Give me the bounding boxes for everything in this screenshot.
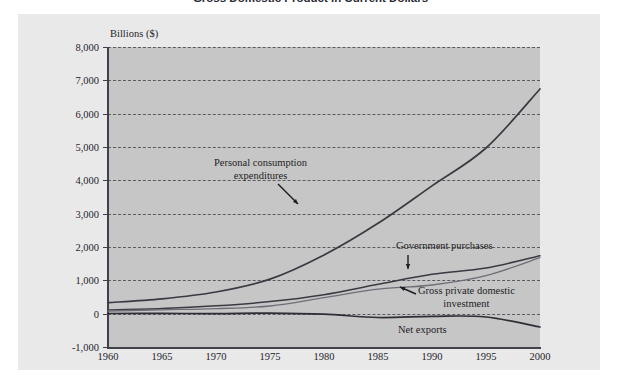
series-personal-consumption-expenditures [108, 89, 540, 303]
y-axis-title: Billions ($) [110, 28, 158, 39]
x-tick-label: 1960 [98, 351, 119, 362]
annotation-government-purchases: Government purchases [396, 240, 493, 253]
x-tick-label: 1985 [368, 351, 389, 362]
chart-title-strip: Gross Domestic Product in Current Dollar… [0, 0, 621, 5]
y-tick-label: 5,000 [75, 142, 99, 153]
arrow-government-purchases-head [406, 264, 410, 269]
figure-area: Billions ($) 8,0007,0006,0005,0004,0003,… [18, 14, 600, 370]
x-tick-label: 1990 [422, 351, 443, 362]
x-tick-label: 1995 [476, 351, 497, 362]
y-tick-label: 1,000 [75, 275, 99, 286]
annotation-arrows [278, 184, 416, 294]
y-tick-label: 3,000 [75, 208, 99, 219]
y-tick-label: 0 [94, 308, 99, 319]
y-tick-label: 2,000 [75, 242, 99, 253]
y-tick-label: 4,000 [75, 175, 99, 186]
plot-area: 8,0007,0006,0005,0004,0003,0002,0001,000… [108, 47, 540, 347]
annotation-net-exports: Net exports [398, 324, 447, 337]
series-net-exports [108, 313, 540, 327]
x-axis-line [107, 347, 541, 349]
y-tick-label: -1,000 [72, 342, 99, 353]
x-tick-label: 1970 [206, 351, 227, 362]
y-tick-label: 7,000 [75, 75, 99, 86]
x-tick-label: 1965 [152, 351, 173, 362]
annotation-gross-private-domestic-investment: Gross private domestic investment [418, 285, 515, 310]
annotation-personal-consumption: Personal consumption expenditures [214, 157, 307, 182]
chart-title: Gross Domestic Product in Current Dollar… [0, 0, 621, 5]
y-tick-label: 6,000 [75, 108, 99, 119]
x-tick-label: 2000 [530, 351, 551, 362]
x-tick-label: 1980 [314, 351, 335, 362]
y-tick-label: 8,000 [75, 42, 99, 53]
x-tick-label: 1975 [260, 351, 281, 362]
chart-page: Gross Domestic Product in Current Dollar… [0, 0, 621, 386]
